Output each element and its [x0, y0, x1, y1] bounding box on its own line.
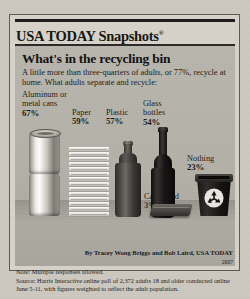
plastic-bottle-body	[115, 163, 141, 217]
label-aluminum-line1: Aluminum or	[22, 90, 67, 99]
illustration-stage	[15, 102, 235, 230]
recycling-bin-rim	[195, 174, 233, 182]
aluminum-can-upper	[29, 132, 60, 174]
recycling-bin-illustration	[195, 174, 233, 218]
paper-sheet	[69, 187, 109, 192]
masthead-title: USA TODAY Snapshots®	[16, 24, 234, 43]
byline: By Tracey Wong Briggs and Bob Laird, USA…	[85, 249, 233, 266]
registered-trademark-icon: ®	[159, 29, 164, 37]
can-lid-icon	[30, 129, 61, 138]
snapshot-panel: What's in the recycling bin A little mor…	[15, 46, 235, 266]
snapshot-frame: USA TODAY Snapshots® What's in the recyc…	[9, 14, 240, 271]
paper-sheet	[69, 207, 109, 212]
aluminum-cans-illustration	[29, 132, 60, 216]
source-text: Source: Harris Interactive online poll o…	[16, 277, 230, 292]
notes-block: Note: Multiple responses allowed. Source…	[15, 268, 235, 292]
byline-year: 2007	[85, 258, 233, 266]
paper-sheet	[69, 152, 109, 157]
can-tab-icon	[37, 132, 54, 135]
aluminum-can-lower	[29, 174, 60, 216]
paper-sheet	[69, 167, 109, 172]
subtitle: A little more than three-quarters of adu…	[22, 68, 228, 88]
paper-sheet	[69, 157, 109, 162]
paper-sheet	[69, 182, 109, 187]
recycle-icon	[204, 188, 224, 208]
plastic-bottle-illustration	[115, 141, 141, 217]
page-title: What's in the recycling bin	[22, 51, 170, 67]
newspaper-stack-illustration	[69, 145, 109, 217]
byline-credit: By Tracey Wong Briggs and Bob Laird, USA…	[85, 249, 233, 256]
paper-sheet	[69, 147, 109, 152]
masthead-title-text: USA TODAY Snapshots	[16, 28, 159, 44]
newspaper-page: USA TODAY Snapshots® What's in the recyc…	[0, 0, 250, 299]
paper-sheet	[69, 172, 109, 177]
paper-sheet	[69, 162, 109, 167]
paper-sheet	[69, 202, 109, 207]
cardboard-illustration	[150, 204, 193, 216]
paper-sheet	[69, 197, 109, 202]
masthead-top-rule	[15, 19, 235, 22]
paper-sheet	[69, 212, 109, 217]
note-text: Note: Multiple responses allowed.	[16, 268, 235, 275]
paper-sheet	[69, 192, 109, 197]
glass-bottle-neck	[159, 131, 167, 156]
paper-sheet	[69, 177, 109, 182]
